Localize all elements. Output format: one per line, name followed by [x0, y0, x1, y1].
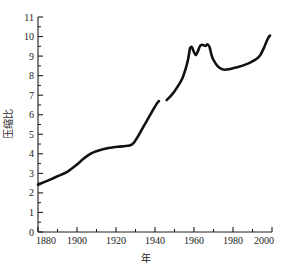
line-chart: 01234567891011 1880190019201940196019802… — [0, 0, 288, 268]
y-tick-label: 3 — [29, 168, 34, 179]
y-tick-label: 6 — [29, 109, 34, 120]
y-tick-label: 2 — [29, 187, 34, 198]
series-line — [167, 36, 270, 101]
y-axis-title: 压缩比 — [2, 109, 14, 139]
x-tick-label: 1960 — [184, 235, 204, 246]
x-tick-label: 2000 — [254, 235, 274, 246]
series-line — [38, 101, 159, 185]
y-tick-label: 1 — [29, 207, 34, 218]
x-tick-label: 1980 — [223, 235, 243, 246]
x-axis-title: 年 — [141, 252, 151, 264]
y-tick-label: 9 — [29, 51, 34, 62]
y-tick-label: 10 — [24, 31, 34, 42]
x-tick-label: 1880 — [36, 235, 56, 246]
data-series — [38, 36, 270, 185]
y-axis-ticks — [38, 17, 43, 232]
chart-figure: 01234567891011 1880190019201940196019802… — [0, 0, 288, 268]
y-tick-label: 4 — [29, 148, 34, 159]
x-axis-ticks — [38, 227, 272, 232]
y-tick-label: 11 — [24, 12, 34, 23]
y-axis-tick-labels: 01234567891011 — [24, 12, 34, 238]
y-tick-label: 8 — [29, 70, 34, 81]
y-tick-label: 0 — [29, 227, 34, 238]
x-axis-tick-labels: 1880190019201940196019802000 — [36, 235, 274, 246]
x-tick-label: 1920 — [106, 235, 126, 246]
axes: 01234567891011 1880190019201940196019802… — [24, 12, 274, 247]
x-tick-label: 1900 — [67, 235, 87, 246]
x-tick-label: 1940 — [145, 235, 165, 246]
y-tick-label: 7 — [29, 90, 34, 101]
y-tick-label: 5 — [29, 129, 34, 140]
